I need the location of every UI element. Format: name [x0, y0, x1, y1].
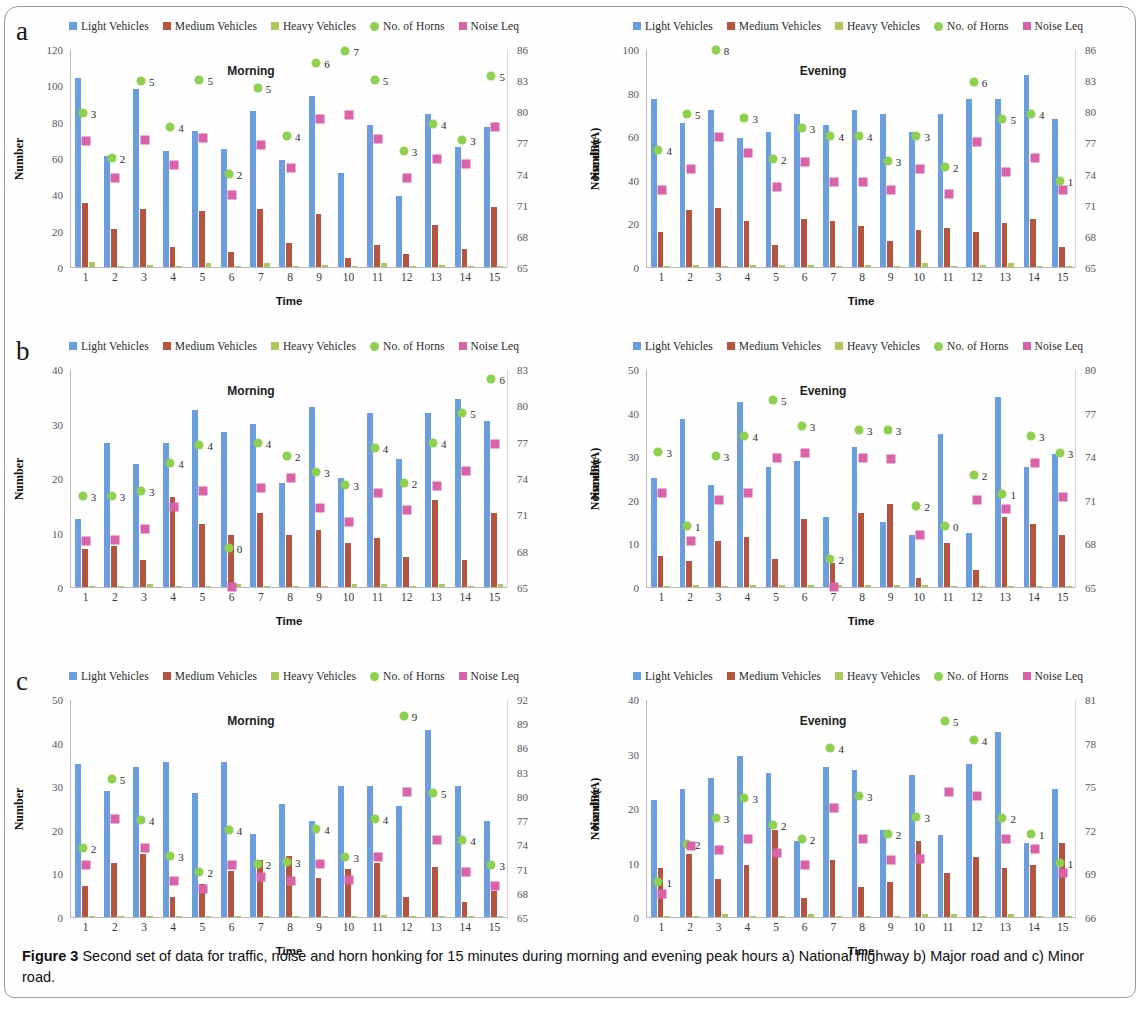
bar-light-vehicles: [250, 111, 256, 267]
bar-medium-vehicles: [973, 857, 979, 917]
light-vehicles-swatch: [69, 22, 77, 30]
legend-label: Light Vehicles: [81, 20, 149, 32]
bar-light-vehicles: [708, 110, 714, 267]
marker-label-horns: 5: [383, 75, 389, 87]
y-tick-right: 77: [517, 137, 528, 149]
bar-light-vehicles: [133, 767, 139, 917]
bar-light-vehicles: [766, 132, 772, 267]
x-tick-label: 11: [942, 921, 953, 933]
x-tick-label: 3: [716, 271, 722, 283]
bar-heavy-vehicles: [664, 266, 670, 268]
legend-label: Medium Vehicles: [175, 340, 257, 352]
legend-item: Heavy Vehicles: [271, 340, 356, 352]
y-tick-right: 74: [1085, 451, 1096, 463]
marker-label-horns: 5: [470, 408, 476, 420]
bar-medium-vehicles: [772, 245, 778, 267]
bar-heavy-vehicles: [206, 263, 212, 267]
legend-item: No. of Horns: [934, 670, 1009, 682]
bar-heavy-vehicles: [293, 916, 299, 918]
marker-noise-leq: [432, 482, 441, 491]
marker-label-horns: 4: [149, 815, 155, 827]
bar-heavy-vehicles: [439, 584, 445, 587]
marker-no-of-horns: [78, 109, 87, 118]
legend-label: No. of Horns: [383, 670, 445, 682]
legend-item: Medium Vehicles: [163, 670, 257, 682]
bar-heavy-vehicles: [750, 585, 756, 587]
time-group: 4: [275, 50, 304, 267]
bar-heavy-vehicles: [352, 584, 358, 587]
time-group: 3: [159, 700, 188, 917]
bar-light-vehicles: [338, 173, 344, 267]
bar-heavy-vehicles: [498, 266, 504, 268]
bar-heavy-vehicles: [894, 266, 900, 268]
x-axis: 123456789101112131415: [647, 271, 1075, 287]
marker-noise-leq: [198, 134, 207, 143]
bar-medium-vehicles: [1059, 843, 1065, 917]
bar-light-vehicles: [133, 89, 139, 267]
bar-medium-vehicles: [973, 570, 979, 587]
marker-label-horns: 4: [838, 131, 844, 143]
marker-label-horns: 3: [896, 156, 902, 168]
time-group: 5: [480, 50, 509, 267]
legend-item: Medium Vehicles: [163, 20, 257, 32]
bar-light-vehicles: [794, 841, 800, 917]
marker-noise-leq: [887, 186, 896, 195]
marker-label-horns: 5: [149, 76, 155, 88]
bar-heavy-vehicles: [264, 916, 270, 918]
bar-light-vehicles: [852, 447, 858, 587]
bar-medium-vehicles: [772, 559, 778, 587]
marker-label-horns: 4: [752, 431, 758, 443]
y-tick-right: 71: [517, 509, 528, 521]
heavy-vehicles-swatch: [271, 22, 279, 30]
y-tick-left: 20: [52, 473, 63, 485]
legend-item: Heavy Vehicles: [271, 670, 356, 682]
bar-heavy-vehicles: [118, 266, 124, 268]
bar-medium-vehicles: [140, 209, 146, 267]
plot-area-a-evening: Evening0204060801006568717477808386Numbe…: [646, 50, 1076, 268]
bar-heavy-vehicles: [836, 266, 842, 268]
bar-medium-vehicles: [887, 241, 893, 267]
bar-light-vehicles: [995, 99, 1001, 267]
y-tick-left: 0: [634, 582, 640, 594]
marker-label-horns: 3: [752, 113, 758, 125]
marker-no-of-horns: [969, 471, 978, 480]
bar-heavy-vehicles: [980, 265, 986, 267]
marker-noise-leq: [169, 503, 178, 512]
marker-noise-leq: [169, 161, 178, 170]
bar-light-vehicles: [484, 421, 490, 587]
time-group: 4: [733, 370, 762, 587]
marker-no-of-horns: [883, 157, 892, 166]
y-tick-left: 20: [628, 218, 639, 230]
y-axis-right: 656871747780: [1079, 370, 1125, 587]
time-group: 4: [305, 700, 334, 917]
marker-label-horns: 2: [781, 154, 787, 166]
marker-no-of-horns: [253, 438, 262, 447]
marker-noise-leq: [432, 155, 441, 164]
noise-leq-swatch: [459, 672, 467, 680]
marker-noise-leq: [403, 787, 412, 796]
legend-label: Noise Leq: [1035, 340, 1083, 352]
time-group: 3: [451, 50, 480, 267]
bar-heavy-vehicles: [922, 914, 928, 917]
x-tick-label: 4: [170, 591, 176, 603]
bar-heavy-vehicles: [235, 916, 241, 918]
no-of-horns-swatch: [934, 672, 943, 681]
bar-heavy-vehicles: [808, 585, 814, 587]
bar-medium-vehicles: [658, 556, 664, 587]
marker-label-horns: 3: [412, 146, 418, 158]
y-tick-left: 80: [628, 88, 639, 100]
bar-medium-vehicles: [403, 254, 409, 267]
bar-heavy-vehicles: [498, 584, 504, 587]
bar-light-vehicles: [484, 127, 490, 267]
marker-no-of-horns: [969, 78, 978, 87]
bar-light-vehicles: [651, 99, 657, 267]
y-axis-left: 010203040: [21, 370, 67, 587]
bar-light-vehicles: [425, 730, 431, 917]
bar-light-vehicles: [192, 410, 198, 587]
bar-heavy-vehicles: [836, 916, 842, 918]
marker-noise-leq: [344, 111, 353, 120]
bar-light-vehicles: [221, 432, 227, 587]
marker-noise-leq: [801, 158, 810, 167]
noise-leq-swatch: [1023, 22, 1031, 30]
bar-heavy-vehicles: [865, 265, 871, 267]
